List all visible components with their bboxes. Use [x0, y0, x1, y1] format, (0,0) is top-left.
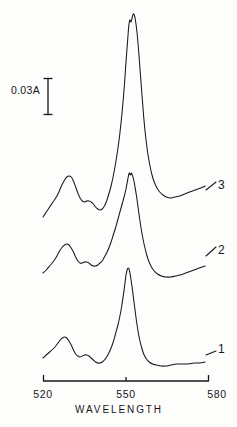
x-axis-title: WAVELENGTH — [44, 404, 194, 415]
curve-label-3: 3 — [218, 178, 225, 192]
x-axis-tick-label-520: 520 — [26, 388, 60, 400]
curve-label-2: 2 — [218, 243, 225, 257]
curve-label-1: 1 — [218, 342, 225, 356]
x-axis-tick-label-550: 550 — [109, 388, 143, 400]
spectrum-figure: 0.03A 520 550 580 WAVELENGTH 3 2 1 — [0, 0, 237, 427]
scale-bar-label: 0.03A — [11, 84, 40, 96]
figure-text-layer: 0.03A 520 550 580 WAVELENGTH 3 2 1 — [0, 0, 237, 427]
x-axis-tick-label-580: 580 — [200, 388, 234, 400]
